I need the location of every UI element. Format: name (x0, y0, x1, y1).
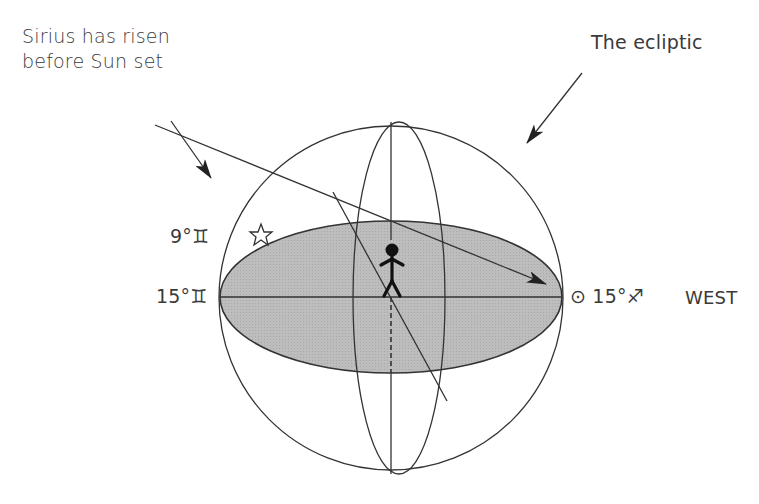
sirius-star-icon (250, 224, 272, 245)
celestial-sphere-diagram (0, 0, 759, 504)
sirius-pointer-arrow (171, 121, 211, 178)
ecliptic-pointer-arrow (527, 73, 582, 143)
